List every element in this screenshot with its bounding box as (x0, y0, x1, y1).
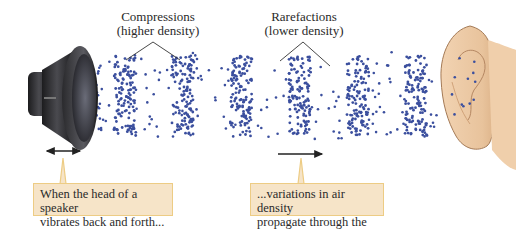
rarefaction-particle (301, 66, 304, 69)
compression-particle (349, 127, 352, 130)
compression-particle (191, 95, 194, 98)
rarefaction-particle (260, 127, 263, 130)
compression-particle (116, 129, 119, 132)
compression-particle (118, 87, 121, 90)
rarefaction-particle (305, 128, 308, 131)
compression-particle (308, 128, 311, 131)
compression-particle (241, 104, 244, 107)
compression-particle (421, 118, 424, 121)
compression-particle (363, 94, 366, 97)
compression-particle (178, 112, 181, 115)
compression-particle (117, 109, 120, 112)
rarefaction-particle (338, 120, 341, 123)
compression-particle (245, 79, 248, 82)
speaker-particle (99, 103, 102, 106)
rarefaction-particle (273, 69, 276, 72)
compression-particle (244, 88, 247, 91)
compression-particle (420, 55, 423, 58)
compression-particle (235, 87, 238, 90)
compression-particle (366, 133, 369, 136)
compression-particle (407, 102, 410, 105)
rarefaction-particle (430, 113, 433, 116)
compression-particle (414, 128, 417, 131)
compression-particle (302, 95, 305, 98)
air-particles (95, 51, 476, 140)
compression-particle (354, 99, 357, 102)
compression-particle (419, 73, 422, 76)
rarefaction-particle (181, 110, 184, 113)
compression-particle (184, 132, 187, 135)
compression-particle (125, 109, 128, 112)
compression-particle (121, 126, 124, 129)
rarefaction-particle (428, 79, 431, 82)
compression-particle (249, 135, 252, 138)
compression-particle (129, 127, 132, 130)
compression-particle (366, 123, 369, 126)
rarefaction-particle (346, 63, 349, 66)
rarefaction-particle (419, 122, 422, 125)
compressions-label-line1: Compressions (108, 10, 208, 24)
rarefactions-label-line1: Rarefactions (258, 10, 350, 24)
rarefaction-particle (378, 93, 381, 96)
compression-particle (409, 76, 412, 79)
compression-particle (250, 93, 253, 96)
rarefaction-particle (167, 87, 170, 90)
compression-particle (181, 79, 184, 82)
compression-particle (179, 56, 182, 59)
compression-particle (362, 77, 365, 80)
compression-particle (238, 72, 241, 75)
compression-particle (248, 130, 251, 133)
compression-particle (127, 89, 130, 92)
compression-particle (409, 107, 412, 110)
rarefaction-particle (282, 95, 285, 98)
rarefaction-particle (154, 69, 157, 72)
compression-particle (307, 120, 310, 123)
compression-particle (306, 131, 309, 134)
compression-particle (411, 84, 414, 87)
compression-particle (417, 55, 420, 58)
compression-particle (351, 125, 354, 128)
compression-particle (189, 107, 192, 110)
speaker-particle (101, 88, 104, 91)
compression-particle (239, 124, 242, 127)
compression-particle (291, 87, 294, 90)
compression-particle (128, 112, 131, 115)
speaker-particle (99, 117, 102, 120)
compression-particle (360, 103, 363, 106)
rarefaction-particle (389, 81, 392, 84)
compression-particle (356, 90, 359, 93)
compression-particle (353, 80, 356, 83)
compression-particle (179, 70, 182, 73)
air-callout-line1: ...variations in air density (257, 187, 377, 215)
compression-particle (132, 124, 135, 127)
rarefaction-particle (351, 114, 354, 117)
compression-particle (356, 63, 359, 66)
compression-particle (355, 133, 358, 136)
rarefaction-particle (335, 100, 338, 103)
compression-particle (181, 73, 184, 76)
compression-particle (124, 64, 127, 67)
compression-particle (288, 121, 291, 124)
compression-particle (173, 59, 176, 62)
compression-particle (362, 120, 365, 123)
compression-particle (307, 59, 310, 62)
rarefaction-particle (118, 112, 121, 115)
compression-particle (231, 93, 234, 96)
rarefaction-particle (431, 80, 434, 83)
compression-particle (243, 67, 246, 70)
compression-particle (410, 90, 413, 93)
compression-particle (241, 120, 244, 123)
compression-particle (247, 56, 250, 59)
rarefaction-particle (249, 79, 252, 82)
compression-particle (192, 98, 195, 101)
compression-particle (303, 71, 306, 74)
air-callout: ...variations in air density propagate t… (250, 183, 384, 216)
compression-particle (239, 99, 242, 102)
speaker-callout-line1: When the head of a speaker (40, 187, 166, 215)
compression-particle (232, 69, 235, 72)
compression-particle (230, 105, 233, 108)
compression-particle (121, 88, 124, 91)
compression-particle (302, 114, 305, 117)
compression-particle (423, 57, 426, 60)
rarefaction-particle (159, 71, 162, 74)
